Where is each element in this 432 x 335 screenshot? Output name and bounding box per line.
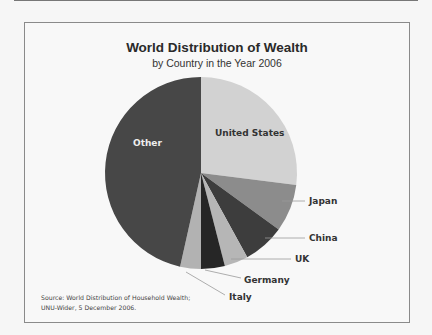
label-germany: Germany <box>244 275 290 285</box>
label-italy: Italy <box>229 292 252 302</box>
label-china: China <box>309 233 338 243</box>
label-united-states: United States <box>215 128 284 138</box>
source-note: Source: World Distribution of Household … <box>41 293 190 313</box>
label-japan: Japan <box>308 196 337 206</box>
source-line-2: UNU-Wider, 5 December 2006. <box>41 303 190 313</box>
pie-slices <box>105 77 297 269</box>
label-other: Other <box>133 138 162 148</box>
pie-chart: United States Other Japan China UK Germa… <box>25 23 409 322</box>
top-rule <box>14 0 418 1</box>
chart-frame: World Distribution of Wealth by Country … <box>24 22 410 323</box>
label-uk: UK <box>295 254 310 264</box>
source-line-1: Source: World Distribution of Household … <box>41 293 190 303</box>
